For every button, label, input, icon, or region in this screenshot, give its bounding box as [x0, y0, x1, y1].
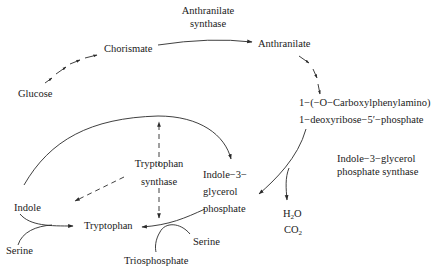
node-igp-line2: glycerol [203, 185, 247, 198]
node-glucose: Glucose [18, 87, 52, 100]
enzyme-igp-synthase: Indole−3−glycerol phosphate synthase [337, 152, 418, 178]
node-serine-left: Serine [6, 244, 33, 257]
node-serine-right: Serine [193, 235, 220, 248]
triosphosphate-branch [155, 225, 190, 252]
glucose-step-3 [70, 60, 80, 64]
node-cdrp-line2: 1−deoxyribose−5′−phosphate [299, 113, 423, 126]
node-indole-3-glycerol-phosphate: Indole−3− glycerol phosphate [203, 168, 247, 215]
node-igp-line1: Indole−3− [203, 168, 247, 181]
node-anthranilate: Anthranilate [258, 37, 310, 50]
glucose-step-2 [56, 67, 66, 74]
enzyme-igp-synthase-line2: phosphate synthase [337, 165, 418, 178]
node-igp-line3: phosphate [203, 202, 247, 215]
indole-to-tryptophan [20, 214, 73, 226]
node-cdrp-line1: 1−(−O−Carboxylphenylamino) [299, 96, 431, 109]
h2o-prefix: H [283, 208, 291, 219]
node-tryptophan: Tryptophan [84, 219, 133, 232]
enzyme-igp-synthase-line1: Indole−3−glycerol [337, 152, 418, 165]
branch-to-h2o [286, 168, 289, 200]
synthase-diagonal-dashed [75, 177, 124, 201]
node-chorismate: Chorismate [104, 42, 152, 55]
byproduct-h2o: H2O [283, 207, 302, 220]
byproduct-co2: CO2 [284, 223, 302, 236]
node-triosphosphate: Triosphosphate [124, 254, 188, 267]
cdrp-to-igp [259, 129, 306, 194]
enzyme-anthranilate-synthase: Anthranilate synthase [168, 4, 248, 30]
anthranilate-step-3 [318, 84, 320, 94]
enzyme-tryptophan-synthase-line1: Tryptophan [128, 157, 190, 170]
enzyme-tryptophan-synthase-line2: synthase [128, 175, 190, 188]
h2o-suffix: O [294, 208, 302, 219]
glucose-step-4 [85, 55, 97, 58]
node-indole: Indole [14, 201, 41, 214]
chorismate-to-anthranilate [158, 40, 252, 45]
igp-to-tryptophan [142, 209, 205, 227]
serine-left-join [18, 225, 52, 245]
co2-prefix: CO [284, 224, 299, 235]
co2-subscript: 2 [299, 229, 303, 237]
enzyme-anthranilate-synthase-line1: Anthranilate [168, 4, 248, 17]
glucose-step-1 [45, 78, 52, 83]
anthranilate-step-1 [299, 56, 309, 63]
enzyme-tryptophan-synthase: Tryptophan synthase [128, 157, 190, 188]
anthranilate-step-2 [313, 69, 317, 78]
enzyme-anthranilate-synthase-line2: synthase [168, 17, 248, 30]
